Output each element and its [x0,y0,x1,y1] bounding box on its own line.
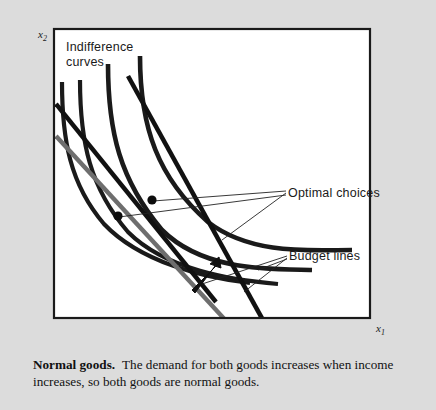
leader-optimal-2 [153,191,286,201]
leader-optimal-3 [222,193,286,240]
indifference-curves-label: Indifference curves [66,40,134,70]
figure-caption: Normal goods.The demand for both goods i… [33,356,405,390]
indifference-curves-label-line1: Indifference [66,40,134,55]
budget-line-1 [56,104,216,302]
optimal-choices-label: Optimal choices [288,186,380,200]
figure-page: x2 x1 Indifference curves Optimal choice… [0,0,436,410]
budget-line-3 [128,76,274,340]
caption-title: Normal goods. [33,357,115,372]
y-axis-label: x2 [38,28,47,43]
indifference-curves-label-line2: curves [66,55,134,70]
budget-lines-label: Budget lines [289,249,360,263]
optimal-point-2 [147,195,156,204]
budget-line-2 [56,136,240,336]
x-axis-label: x1 [376,322,385,337]
optimal-point-1 [113,211,122,220]
